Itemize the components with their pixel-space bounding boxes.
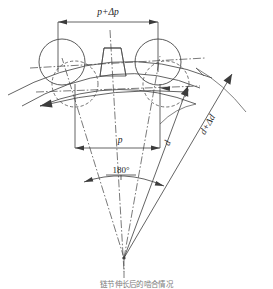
figure-caption: 链节伸长后的啮合情况 (0, 280, 273, 289)
label-angle: 180° (112, 165, 130, 175)
diagram-root: p+Δp p d d+Δd (0, 0, 273, 289)
arrowhead-d-extended (223, 72, 235, 85)
angle-arc (84, 176, 164, 186)
label-pitch-nominal: p (117, 135, 123, 145)
arrowhead-angle-left (83, 177, 93, 184)
dim-line-d (124, 86, 188, 258)
arrowhead-converge-upper (160, 86, 170, 91)
tooth-left-edge (100, 48, 104, 76)
label-diameter-nominal: d (162, 139, 173, 147)
left-wedge-vertex-group (39, 100, 52, 110)
arrowhead-angle-right (155, 181, 165, 188)
dimension-angle: 180° (83, 165, 164, 188)
arrowhead-left-bottom (75, 146, 84, 151)
roller-left-solid-icon (39, 39, 85, 85)
arrowhead-right-top (149, 20, 158, 25)
vertical-centerline (110, 30, 124, 272)
centerlines-group (30, 30, 205, 272)
label-diameter-extended: d+Δd (198, 112, 218, 136)
horizontal-centerline-upper (30, 58, 205, 68)
arrowhead-right-bottom (151, 146, 160, 151)
dim-line-d-extended (124, 74, 232, 258)
right-convergence-group (160, 86, 170, 91)
rollers-dashed-group (52, 61, 189, 107)
radial-centerline-left (62, 58, 124, 258)
sprocket-pitch-figure: p+Δp p d d+Δd (0, 0, 273, 289)
arrowhead-left-wedge (39, 100, 52, 110)
label-pitch-extended: p+Δp (96, 7, 119, 17)
arrowhead-left-top (58, 20, 67, 25)
pitch-arcs-group (8, 62, 212, 106)
